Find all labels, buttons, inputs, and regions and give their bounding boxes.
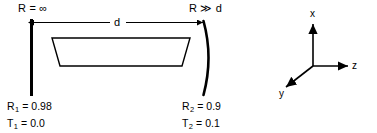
figure-canvas: R = ∞ R ≫ d d R1 = 0.98 T1 = 0.0 R2 = 0.… xyxy=(0,0,377,133)
left-mirror-curvature-label: R = ∞ xyxy=(18,3,47,14)
gain-medium-trapezoid xyxy=(52,38,190,66)
right-transmission-value: = 0.1 xyxy=(196,117,220,129)
left-mirror-parameters: R1 = 0.98 T1 = 0.0 xyxy=(7,100,52,131)
z-axis-label: z xyxy=(352,61,357,71)
right-reflectivity-value: = 0.9 xyxy=(197,100,221,112)
x-axis-label: x xyxy=(310,9,315,19)
left-reflectivity-symbol: R xyxy=(7,100,15,112)
left-reflectivity-line: R1 = 0.98 xyxy=(7,100,52,114)
right-transmission-line: T2 = 0.1 xyxy=(182,117,221,131)
cavity-length-label: d xyxy=(114,17,120,28)
left-reflectivity-value: = 0.98 xyxy=(22,100,52,112)
right-reflectivity-line: R2 = 0.9 xyxy=(182,100,221,114)
right-transmission-subscript: 2 xyxy=(188,122,193,131)
right-mirror-curvature-label: R ≫ d xyxy=(189,3,222,14)
right-reflectivity-symbol: R xyxy=(182,100,190,112)
right-curved-mirror xyxy=(204,21,209,95)
left-transmission-value: = 0.0 xyxy=(21,117,45,129)
left-transmission-line: T1 = 0.0 xyxy=(7,117,52,131)
y-axis-arrow xyxy=(286,66,313,87)
right-mirror-parameters: R2 = 0.9 T2 = 0.1 xyxy=(182,100,221,131)
right-reflectivity-subscript: 2 xyxy=(190,105,195,114)
y-axis-label: y xyxy=(279,89,284,99)
left-transmission-subscript: 1 xyxy=(13,122,18,131)
left-reflectivity-subscript: 1 xyxy=(15,105,20,114)
